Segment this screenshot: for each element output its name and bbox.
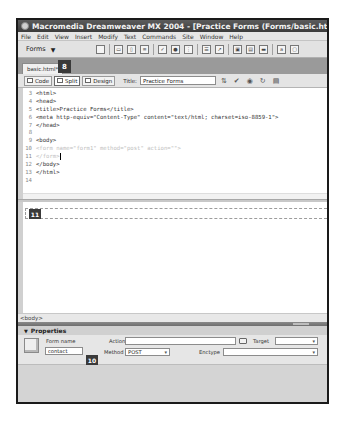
design-view-button[interactable]: Design [82,76,115,86]
menu-help[interactable]: Help [229,33,243,40]
menu-commands[interactable]: Commands [142,33,176,40]
code-line: 3<html> [23,89,327,97]
browse-folder-icon[interactable] [239,338,247,344]
menu-text[interactable]: Text [124,33,136,40]
radio-button-icon[interactable]: ● [171,45,180,54]
code-view-button[interactable]: Code [24,76,52,86]
code-text: <title>Practice Forms</title> [36,106,134,112]
toolbar-separator [153,44,154,55]
enctype-select[interactable]: ▾ [223,348,318,356]
dreamweaver-window: Macromedia Dreamweaver MX 2004 - [Practi… [16,18,329,404]
collapse-triangle-icon: ▼ [24,328,28,334]
menu-modify[interactable]: Modify [98,33,118,40]
splitter-grip-icon[interactable] [293,323,309,325]
target-select[interactable]: ▾ [275,337,318,345]
code-text: </html> [36,169,60,175]
preview-browser-icon[interactable]: ◉ [247,77,253,85]
document-title-input[interactable]: Practice Forms [140,76,216,85]
action-label: Action [109,338,125,344]
window-title: Macromedia Dreamweaver MX 2004 - [Practi… [32,22,327,31]
target-label: Target [253,338,269,344]
form-icon[interactable] [96,45,105,54]
code-line: 10<form name="form1" method="post" actio… [23,144,327,152]
form-name-label: Form name [46,338,75,344]
design-view-label: Design [93,78,112,84]
code-line: 11</form> [23,152,327,160]
file-field-icon[interactable]: ▤ [246,45,255,54]
image-field-icon[interactable]: ▣ [233,45,242,54]
split-view-icon [57,78,63,83]
textarea-icon[interactable]: ≡ [140,45,149,54]
code-line: 13</html> [23,168,327,176]
dreamweaver-app-icon [21,22,29,30]
file-management-icon[interactable]: ⇅ [221,77,227,85]
toolbar-separator [272,44,273,55]
title-label: Title: [123,78,137,84]
code-text: </body> [36,161,60,167]
refresh-icon[interactable]: ↻ [260,77,266,85]
code-line: 6<meta http-equiv="Content-Type" content… [23,113,327,121]
menu-insert[interactable]: Insert [75,33,92,40]
line-number: 5 [23,106,32,112]
list-menu-icon[interactable]: ☰ [202,45,211,54]
chevron-down-icon: ▾ [164,349,167,355]
fieldset-icon[interactable]: ▢ [290,45,299,54]
callout-11: 11 [29,209,41,219]
code-view-pane[interactable]: 3<html> 4<head> 5<title>Practice Forms</… [18,88,327,199]
code-text: <meta http-equiv="Content-Type" content=… [36,114,278,120]
action-input[interactable] [125,337,236,345]
callout-10: 10 [86,355,98,365]
line-number: 8 [23,129,32,135]
tag-selector: <body> [18,313,327,322]
menu-window[interactable]: Window [200,33,224,40]
properties-panel: ▼ Properties Form name contact Action Ta… [18,326,327,402]
line-number: 10 [23,145,32,151]
label-icon[interactable]: a [277,45,286,54]
code-line: 4<head> [23,97,327,105]
method-select[interactable]: POST ▾ [125,348,170,356]
callout-8: 8 [58,60,71,73]
line-number: 4 [23,98,32,104]
form-boundary-outline[interactable] [25,208,327,219]
menu-site[interactable]: Site [182,33,194,40]
code-line: 12</body> [23,160,327,168]
button-icon[interactable]: ▬ [259,45,268,54]
design-view-icon [85,78,91,83]
line-number: 6 [23,114,32,120]
validate-markup-icon[interactable]: ✔ [234,77,240,85]
view-options-icon[interactable]: ▤ [273,77,280,85]
tag-body[interactable]: <body> [20,315,43,321]
text-cursor [60,153,61,160]
hidden-field-icon[interactable]: ▯ [127,45,136,54]
line-number: 7 [23,122,32,128]
split-view-button[interactable]: Split [54,76,80,86]
document-area: basic.html* 8 Code Split Design Title: P… [18,58,327,402]
code-view-label: Code [35,78,49,84]
jump-menu-icon[interactable]: ↗ [215,45,224,54]
radio-group-icon[interactable]: ⋮ [184,45,193,54]
line-number: 3 [23,90,32,96]
chevron-down-icon: ▼ [51,46,56,53]
insert-category-dropdown[interactable]: Forms ▼ [26,45,86,53]
code-text: <body> [36,137,56,143]
split-view-label: Split [65,78,77,84]
code-line: 14 [23,176,327,184]
insert-bar: Forms ▼ ▭ ▯ ≡ ✓ ● ⋮ ☰ ↗ ▣ ▤ ▬ a ▢ [18,41,327,58]
method-label: Method [104,349,123,355]
code-line: 9<body> [23,136,327,144]
code-line: 8 [23,128,327,136]
code-text-selected: </form> [36,153,60,159]
checkbox-icon[interactable]: ✓ [158,45,167,54]
menu-view[interactable]: View [55,33,69,40]
menu-file[interactable]: File [21,33,31,40]
line-number: 12 [23,161,32,167]
menu-edit[interactable]: Edit [37,33,49,40]
design-view-pane[interactable]: 11 [18,202,327,313]
document-tabs: basic.html* 8 [18,61,327,74]
properties-header[interactable]: ▼ Properties [18,326,327,335]
title-bar: Macromedia Dreamweaver MX 2004 - [Practi… [18,20,327,32]
code-view-scrollbar[interactable] [23,193,327,199]
code-text: </head> [36,122,60,128]
text-field-icon[interactable]: ▭ [114,45,123,54]
form-name-input[interactable]: contact [45,347,83,355]
